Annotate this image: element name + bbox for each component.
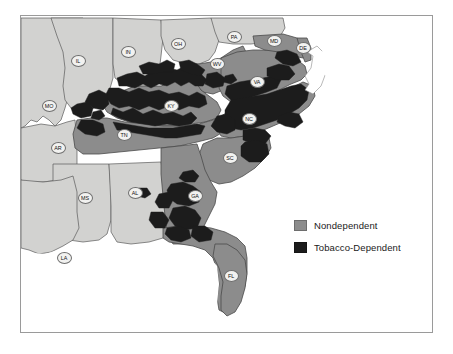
map-legend: Nondependent Tobacco-Dependent	[294, 216, 426, 260]
state-label-ky: KY	[164, 100, 179, 112]
state-label-al: AL	[128, 187, 143, 199]
legend-item-nondependent: Nondependent	[294, 216, 426, 234]
state-label-pa: PA	[227, 31, 242, 43]
tobacco-dependent-swatch	[294, 242, 307, 253]
nondependent-swatch	[294, 220, 307, 231]
state-label-la: LA	[57, 252, 72, 264]
state-label-oh: OH	[171, 38, 186, 50]
state-label-fl: FL	[224, 270, 239, 282]
state-label-ar: AR	[51, 142, 66, 154]
map-frame: IL IN OH PA MD DE WV MO KY VA NC TN AR S…	[20, 15, 433, 333]
state-label-sc: SC	[223, 152, 238, 164]
state-label-wv: WV	[210, 58, 225, 70]
state-label-in: IN	[121, 46, 136, 58]
state-label-ms: MS	[78, 192, 93, 204]
gulf-of-mexico	[21, 244, 219, 332]
state-label-tn: TN	[117, 129, 132, 141]
state-label-va: VA	[250, 76, 265, 88]
state-label-il: IL	[71, 55, 86, 67]
state-label-nc: NC	[242, 113, 257, 125]
legend-label-nondependent: Nondependent	[314, 220, 378, 231]
legend-label-tobacco-dependent: Tobacco-Dependent	[314, 242, 401, 253]
state-label-de: DE	[296, 42, 311, 54]
figure-page: IL IN OH PA MD DE WV MO KY VA NC TN AR S…	[0, 0, 453, 354]
state-label-ga: GA	[188, 190, 203, 202]
legend-item-tobacco-dependent: Tobacco-Dependent	[294, 238, 426, 256]
state-label-mo: MO	[42, 100, 57, 112]
state-label-md: MD	[267, 35, 282, 47]
